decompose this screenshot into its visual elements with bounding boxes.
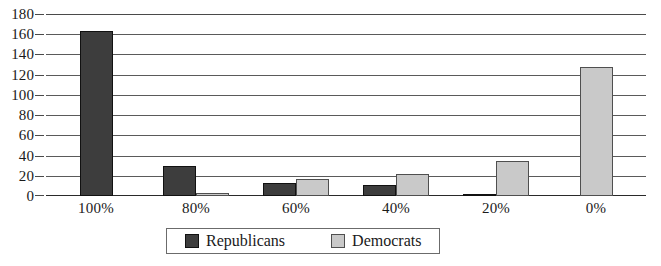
x-axis-tick-label: 0% [546, 200, 646, 217]
legend-item-democrats: Democrats [331, 233, 421, 249]
y-axis-tick-label: 100 [11, 87, 34, 102]
y-axis-tick-label: 20 [19, 168, 34, 183]
bar-republicans-60 [263, 183, 296, 196]
bar-republicans-20 [463, 194, 496, 196]
x-axis-tick-label: 100% [46, 200, 146, 217]
bar-group-100 [46, 14, 146, 196]
plot-area [46, 14, 646, 196]
chart-legend: Republicans Democrats [166, 228, 440, 254]
legend-item-republicans: Republicans [185, 233, 285, 249]
bar-group-60 [246, 14, 346, 196]
bar-group-40 [346, 14, 446, 196]
x-axis-tick-label: 80% [146, 200, 246, 217]
bar-democrats-0 [580, 67, 613, 196]
y-axis-tick-label: 0 [26, 189, 34, 204]
bar-chart: 180 160 140 120 100 80 60 40 20 0 [0, 0, 661, 266]
x-axis-tick-label: 60% [246, 200, 346, 217]
legend-label-democrats: Democrats [352, 233, 421, 249]
dark-gray-swatch-icon [185, 234, 199, 248]
bar-republicans-80 [163, 166, 196, 196]
y-axis-tick-label: 180 [11, 7, 34, 22]
bar-republicans-40 [363, 185, 396, 196]
bar-group-0 [546, 14, 646, 196]
x-axis-tick-label: 40% [346, 200, 446, 217]
bar-republicans-100 [80, 31, 113, 196]
light-gray-swatch-icon [331, 234, 345, 248]
bar-group-80 [146, 14, 246, 196]
legend-label-republicans: Republicans [206, 233, 285, 249]
y-axis-tick-label: 80 [19, 108, 34, 123]
bar-democrats-40 [396, 174, 429, 196]
bar-democrats-80 [196, 193, 229, 196]
y-axis-tick-label: 140 [11, 47, 34, 62]
y-axis-tick-label: 120 [11, 67, 34, 82]
y-axis-tick-label: 40 [19, 148, 34, 163]
y-axis-tick-label: 160 [11, 27, 34, 42]
bar-democrats-60 [296, 179, 329, 196]
y-axis-labels: 180 160 140 120 100 80 60 40 20 0 [0, 14, 34, 196]
x-axis-labels: 100% 80% 60% 40% 20% 0% [46, 200, 646, 217]
bar-group-20 [446, 14, 546, 196]
bar-democrats-20 [496, 161, 529, 196]
bar-groups [46, 14, 646, 196]
x-axis-tick-label: 20% [446, 200, 546, 217]
y-axis-tick-label: 60 [19, 128, 34, 143]
